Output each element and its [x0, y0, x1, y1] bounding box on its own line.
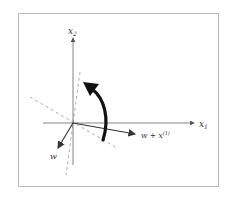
- w-vector-label: w: [50, 152, 57, 161]
- perceptron-update-diagram: x2 x1 w w + x(1): [0, 0, 231, 198]
- figure-frame: [19, 14, 219, 187]
